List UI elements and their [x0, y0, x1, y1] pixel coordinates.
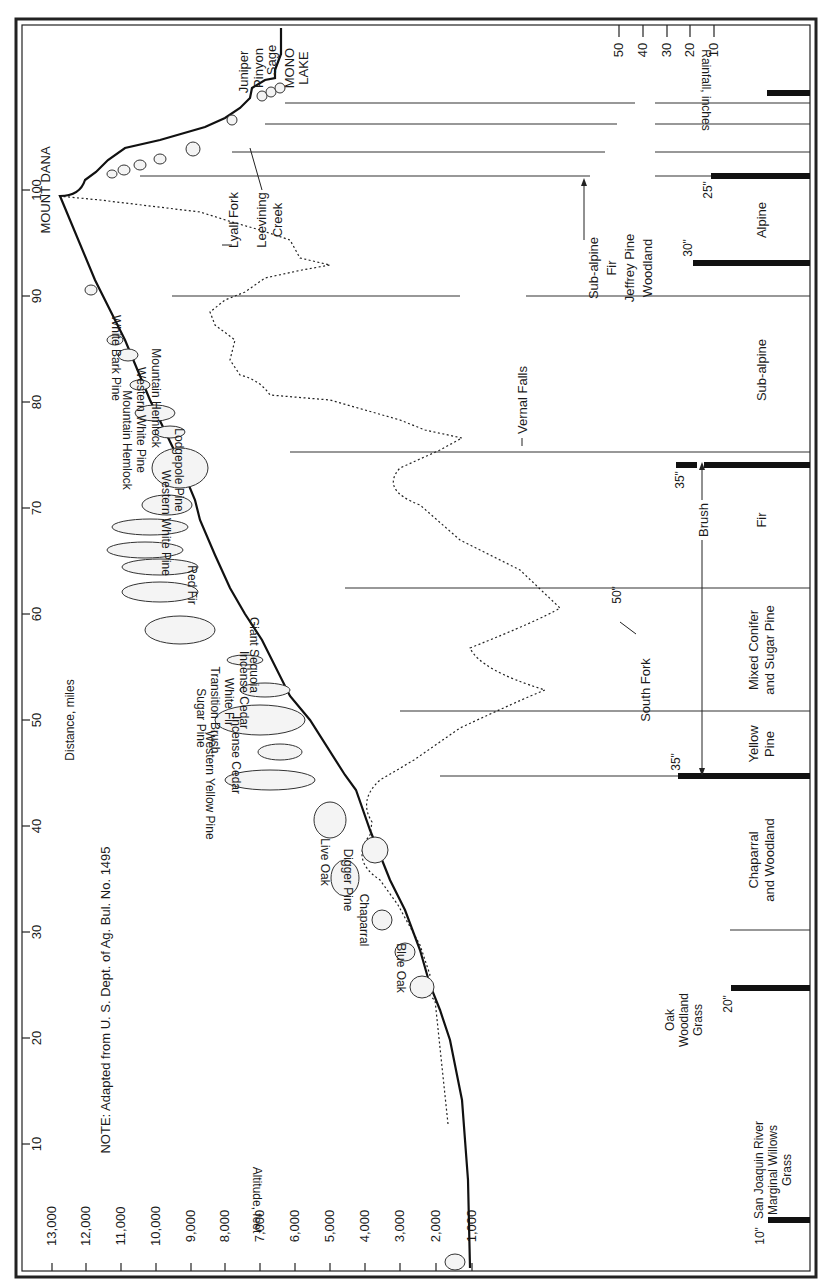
- sugar-pine-label: Sugar Pine: [194, 688, 208, 748]
- pinyon-icon: [266, 87, 276, 97]
- rainfall-axis-label: Rainfall, inches: [699, 49, 713, 130]
- zone-yellow-pine-line1: Yellow: [746, 725, 761, 763]
- zone-brush: Brush: [696, 503, 711, 537]
- distance-tick: 50: [29, 713, 44, 727]
- altitude-tick: 1,000: [464, 1210, 479, 1243]
- digger-pine-label: Digger Pine: [341, 849, 355, 912]
- altitude-tick: 8,000: [217, 1210, 232, 1243]
- distance-tick: 40: [29, 819, 44, 833]
- willow-icon: [445, 1254, 465, 1270]
- leevining-label-2: Creek: [270, 202, 285, 237]
- alpine-shrub-icon: [154, 154, 166, 164]
- altitude-tick: 2,000: [428, 1210, 443, 1243]
- san-joaquin-label-3: Grass: [780, 1154, 794, 1186]
- altitude-tick: 6,000: [287, 1210, 302, 1243]
- altitude-tick: 3,000: [392, 1210, 407, 1243]
- distance-tick: 70: [29, 501, 44, 515]
- zone-fir: Fir: [754, 512, 769, 528]
- rain-tick: 30: [659, 43, 674, 57]
- altitude-tick: 9,000: [183, 1210, 198, 1243]
- zone-east-woodland: Woodland: [640, 239, 655, 297]
- inner-frame: [22, 25, 810, 1271]
- lodgepole-pine-label: Lodgepole Pine: [172, 428, 186, 512]
- altitude-tick: 4,000: [357, 1210, 372, 1243]
- live-oak-icon: [362, 837, 388, 863]
- chaparral-veg-label: Chaparral: [357, 894, 371, 947]
- live-oak-label: Live Oak: [318, 838, 332, 886]
- giant-sequoia-icon: [145, 616, 215, 644]
- white-fir-label: White Fir: [222, 678, 236, 726]
- leevining-arrow: [250, 148, 262, 190]
- zone-labels: Chaparral and Woodland Yellow Pine Mixed…: [586, 202, 777, 902]
- chaparral-icon: [372, 910, 392, 930]
- western-white-pine-label-2: Western White Pine: [134, 367, 148, 473]
- mountain-hemlock-label-1: Mountain Hemlock: [120, 390, 134, 490]
- red-fir-icon: [112, 519, 188, 535]
- rain-value-20: 20": [721, 995, 735, 1013]
- zone-east-subalpine: Sub-alpine: [586, 237, 601, 299]
- rain-value-50: 50": [610, 586, 624, 604]
- distance-tick: 60: [29, 607, 44, 621]
- altitude-axis: 13,000 12,000 11,000 10,000 9,000 8,000 …: [44, 1167, 479, 1271]
- distance-axis: 10 20 30 40 50 60 70 80 90 100 Distance,…: [22, 179, 77, 1151]
- altitude-tick: 12,000: [78, 1206, 93, 1246]
- distance-tick: 80: [29, 395, 44, 409]
- lyall-fork-label: Lyall Fork: [226, 192, 241, 248]
- red-fir-label: Red Fir: [185, 565, 199, 604]
- distance-tick: 10: [29, 1137, 44, 1151]
- zone-mixed-conifer-line1: Mixed Conifer: [746, 609, 761, 690]
- oak-woodland-label-2: Woodland: [677, 993, 691, 1047]
- white-bark-pine-icon: [85, 285, 97, 295]
- river-profile: [58, 196, 560, 1124]
- distance-axis-label: Distance, miles: [63, 679, 77, 760]
- transition-brush-label: Transition Brush: [208, 667, 222, 754]
- altitude-tick: 13,000: [44, 1206, 59, 1246]
- tree-glyphs: [85, 83, 465, 1270]
- south-fork-arrow: [620, 622, 636, 634]
- mono-lake-label-2: LAKE: [296, 51, 311, 85]
- incense-cedar-icon: [258, 744, 302, 760]
- vernal-falls-label: Vernal Falls: [515, 366, 530, 434]
- zone-mixed-conifer-line2: and Sugar Pine: [762, 605, 777, 695]
- oak-woodland-label-1: Oak: [663, 1008, 677, 1031]
- leevining-label-1: Leevining: [254, 192, 269, 248]
- distance-tick: 30: [29, 925, 44, 939]
- alpine-shrub-icon: [134, 160, 146, 170]
- zone-chaparral-line2: and Woodland: [762, 818, 777, 902]
- zone-sub-alpine: Sub-alpine: [754, 339, 769, 401]
- oak-woodland-label-3: Grass: [691, 1004, 705, 1036]
- distance-tick: 20: [29, 1031, 44, 1045]
- rain-value-10: 10": [753, 1227, 767, 1245]
- vegetation-profile-figure: 10 20 30 40 50 60 70 80 90 100 Distance,…: [0, 0, 822, 1280]
- altitude-tick: 10,000: [148, 1206, 163, 1246]
- rain-tick: 20: [682, 43, 697, 57]
- sage-label: Sage: [264, 45, 279, 75]
- rain-value-30: 30": [681, 239, 695, 257]
- subalpine-arrowhead: [581, 178, 587, 186]
- jeffrey-pine-icon: [186, 142, 200, 156]
- san-joaquin-label-1: San Joaquin River: [752, 1121, 766, 1219]
- zone-chaparral-line1: Chaparral: [746, 831, 761, 888]
- source-note: NOTE: Adapted from U. S. Dept. of Ag. Bu…: [98, 846, 113, 1153]
- outer-frame: [16, 19, 816, 1277]
- mount-dana-label: MOUNT DANA: [38, 146, 53, 233]
- mono-lake-label-1: MONO: [282, 48, 297, 88]
- distance-tick: 90: [29, 289, 44, 303]
- blue-oak-icon: [410, 976, 434, 998]
- digger-pine-icon: [314, 802, 346, 838]
- rain-value-35a: 35": [669, 753, 683, 771]
- western-white-pine-label-1: Western White Pine: [159, 470, 173, 576]
- rainfall-scale: 50 40 30 20 10 Rainfall, inches: [611, 25, 721, 131]
- zone-east-fir: Fir: [604, 260, 619, 276]
- rain-tick: 40: [635, 43, 650, 57]
- zone-east-jeffrey: Jeffrey Pine: [622, 234, 637, 302]
- rain-value-35b: 35": [673, 471, 687, 489]
- zone-alpine: Alpine: [754, 202, 769, 238]
- rain-value-25: 25": [701, 181, 715, 199]
- altitude-axis-label: Altitude, feet: [250, 1167, 264, 1234]
- subalpine-fir-icon: [227, 115, 237, 125]
- white-bark-pine-label: White Bark Pine: [109, 315, 123, 401]
- blue-oak-label: Blue Oak: [394, 943, 408, 993]
- zone-yellow-pine-line2: Pine: [762, 731, 777, 757]
- mountain-hemlock-label-2: Mountain Hemlock: [149, 348, 163, 448]
